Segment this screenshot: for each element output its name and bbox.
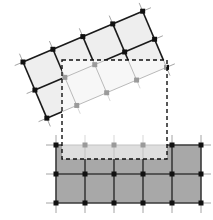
rotated-grid-node [44, 116, 49, 121]
bottom-grid-cell [85, 174, 114, 203]
bottom-grid-node [199, 143, 204, 148]
bottom-grid-node [170, 172, 175, 177]
bottom-grid-node [112, 143, 117, 148]
rotated-grid-node [21, 60, 26, 65]
bottom-grid-cell [172, 174, 201, 203]
rotated-grid-node [74, 103, 79, 108]
bottom-grid-node [141, 172, 146, 177]
diagram-svg [0, 0, 213, 220]
rotated-grid-node [140, 9, 145, 14]
bottom-grid-node [83, 143, 88, 148]
bottom-grid-node [83, 172, 88, 177]
bottom-grid-node [141, 143, 146, 148]
bottom-grid-cell [114, 174, 143, 203]
rotated-grid-node [110, 21, 115, 26]
figure-canvas [0, 0, 213, 220]
rotated-grid-node [80, 34, 85, 39]
rotated-grid-node [92, 62, 97, 67]
rotated-grid-node [104, 90, 109, 95]
rotated-grid-node [134, 78, 139, 83]
rotated-grid-node [122, 49, 127, 54]
bottom-grid-node [199, 201, 204, 206]
bottom-grid-cell [56, 174, 85, 203]
bottom-grid-node [141, 201, 146, 206]
bottom-grid-cell [172, 145, 201, 174]
bottom-grid-node [54, 201, 59, 206]
bottom-grid-node [112, 201, 117, 206]
bottom-grid-node [54, 172, 59, 177]
bottom-grid-node [83, 201, 88, 206]
rotated-grid-node [32, 88, 37, 93]
bottom-grid-cell [143, 174, 172, 203]
bottom-grid-node [170, 143, 175, 148]
bottom-grid-node [170, 201, 175, 206]
bottom-grid-node [112, 172, 117, 177]
bottom-grid-node [54, 143, 59, 148]
bottom-grid-node [199, 172, 204, 177]
rotated-grid-node [62, 75, 67, 80]
rotated-grid-node [50, 47, 55, 52]
rotated-grid-node [152, 37, 157, 42]
